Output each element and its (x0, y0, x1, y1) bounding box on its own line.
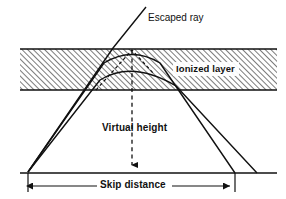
ionospheric-propagation-figure: Escaped ray Ionized layer Virtual height… (0, 0, 286, 199)
diagram-canvas (0, 0, 286, 199)
escaped-ray-label: Escaped ray (148, 13, 204, 23)
skip-distance-label: Skip distance (100, 180, 166, 190)
ionized-layer-label: Ionized layer (176, 64, 235, 74)
virtual-height-label: Virtual height (102, 123, 167, 133)
